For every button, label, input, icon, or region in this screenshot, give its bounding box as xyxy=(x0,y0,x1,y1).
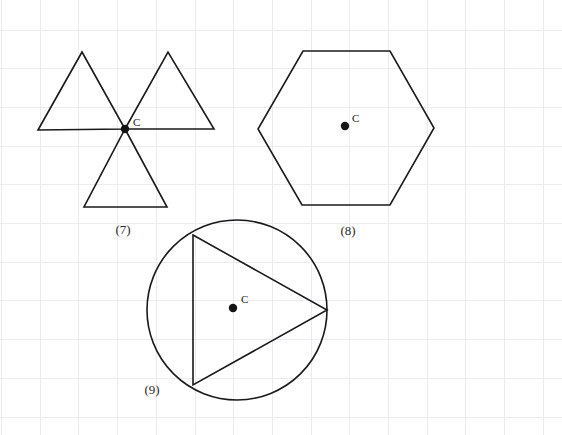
figure-8-caption: (8) xyxy=(340,223,355,238)
canvas-background xyxy=(0,0,562,435)
figure-7-caption: (7) xyxy=(115,222,130,237)
geometry-figures-svg: C (7) C (8) C (9) xyxy=(0,0,562,435)
figure-9-caption: (9) xyxy=(144,382,159,397)
figure-7-center-dot xyxy=(121,125,129,133)
figure-9-center-label: C xyxy=(241,293,248,305)
figure-8-center-dot xyxy=(341,122,349,130)
figure-9-center-dot xyxy=(229,304,237,312)
figure-canvas: C (7) C (8) C (9) xyxy=(0,0,562,435)
figure-8-center-label: C xyxy=(352,112,359,124)
figure-7-center-label: C xyxy=(133,116,140,128)
